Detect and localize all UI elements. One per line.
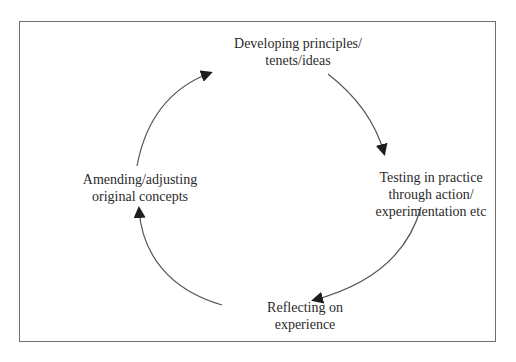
node-reflecting-on-experience: Reflecting on experience xyxy=(210,299,400,333)
node-text-line: Amending/adjusting xyxy=(60,171,220,188)
node-text-line: Testing in practice xyxy=(356,169,506,186)
node-text-line: experience xyxy=(210,316,400,333)
node-text-line: through action/ xyxy=(356,186,506,203)
arrow-top-to-right xyxy=(328,74,384,153)
arrow-right-to-bottom xyxy=(314,207,421,300)
node-testing-in-practice: Testing in practice through action/ expe… xyxy=(356,169,506,220)
node-text-line: original concepts xyxy=(60,188,220,205)
arrow-bottom-to-left xyxy=(139,209,222,305)
arrow-left-to-top xyxy=(137,73,210,166)
node-text-line: experimentation etc xyxy=(356,203,506,220)
node-amending-concepts: Amending/adjusting original concepts xyxy=(60,171,220,205)
node-developing-principles: Developing principles/ tenets/ideas xyxy=(198,35,398,69)
node-text-line: Reflecting on xyxy=(210,299,400,316)
node-text-line: Developing principles/ xyxy=(198,35,398,52)
node-text-line: tenets/ideas xyxy=(198,52,398,69)
